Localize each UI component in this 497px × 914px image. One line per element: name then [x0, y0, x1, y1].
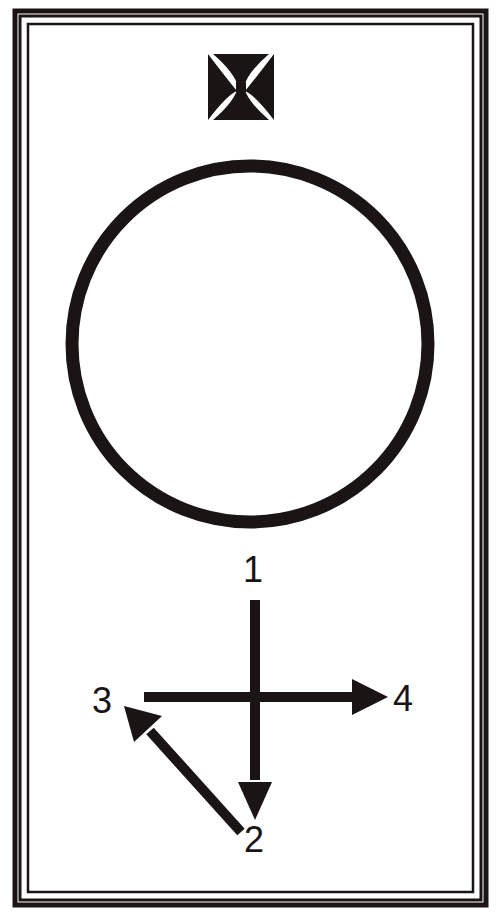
label-step-3: 3: [92, 683, 112, 719]
arrow-2-to-3: [124, 706, 241, 832]
large-circle: [72, 166, 428, 522]
label-step-1: 1: [243, 552, 263, 588]
arrow-3-to-4: [144, 679, 388, 715]
cross-pattee-icon: [208, 54, 274, 120]
label-step-2: 2: [244, 822, 264, 858]
arrow-1-to-2: [238, 600, 272, 820]
label-step-4: 4: [393, 681, 413, 717]
diagram-canvas: [0, 0, 497, 914]
